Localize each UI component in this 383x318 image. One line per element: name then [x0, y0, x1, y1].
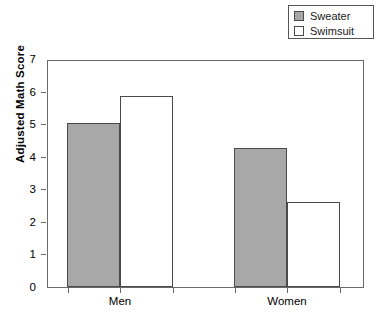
legend-item-sweater: Sweater: [294, 9, 369, 23]
legend-label-swimsuit: Swimsuit: [310, 25, 354, 37]
legend-swatch-sweater: [294, 11, 304, 21]
y-tick-mark: [41, 92, 46, 93]
plot-area: [47, 60, 364, 288]
x-tick-mark: [340, 288, 341, 293]
x-tick-mark: [235, 288, 236, 293]
y-tick-label: 4: [14, 150, 36, 164]
y-tick-mark: [41, 189, 46, 190]
bar-women-sweater: [234, 148, 287, 287]
y-tick-mark: [41, 157, 46, 158]
chart-legend: Sweater Swimsuit: [288, 5, 374, 39]
bar-men-sweater: [67, 123, 120, 287]
y-tick-label: 0: [14, 280, 36, 294]
y-tick-mark: [41, 254, 46, 255]
y-tick-label: 6: [14, 85, 36, 99]
bar-chart: Sweater Swimsuit Adjusted Math Score 765…: [0, 0, 383, 318]
y-tick-label: 2: [14, 215, 36, 229]
y-tick-mark: [41, 124, 46, 125]
bar-women-swimsuit: [287, 202, 340, 287]
x-tick-mark: [173, 288, 174, 293]
x-tick-mark: [68, 288, 69, 293]
bar-men-swimsuit: [120, 96, 173, 287]
y-tick-mark: [41, 222, 46, 223]
legend-item-swimsuit: Swimsuit: [294, 24, 369, 38]
y-tick-label: 1: [14, 247, 36, 261]
x-tick-label-men: Men: [75, 293, 165, 309]
legend-label-sweater: Sweater: [310, 10, 350, 22]
x-tick-label-women: Women: [242, 293, 332, 309]
y-tick-label: 3: [14, 182, 36, 196]
y-tick-label: 5: [14, 117, 36, 131]
y-tick-label: 7: [14, 52, 36, 66]
legend-swatch-swimsuit: [294, 26, 304, 36]
